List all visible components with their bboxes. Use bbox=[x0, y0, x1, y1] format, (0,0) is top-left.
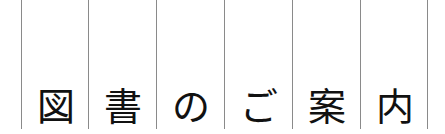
title-char: 書 bbox=[104, 88, 142, 126]
title-char-cell: 書 bbox=[89, 84, 156, 130]
title-char: 図 bbox=[37, 88, 75, 126]
title-char: の bbox=[172, 88, 210, 126]
title-char: ご bbox=[240, 88, 278, 126]
title-char-cell: 内 bbox=[361, 84, 428, 130]
title-char: 内 bbox=[376, 88, 414, 126]
title-char: 案 bbox=[308, 88, 346, 126]
title-char-cell: 図 bbox=[22, 84, 89, 130]
title-char-cell: の bbox=[157, 84, 224, 130]
title-char-cell: ご bbox=[225, 84, 292, 130]
title-char-cell: 案 bbox=[293, 84, 360, 130]
title-banner: 図 書 の ご 案 内 bbox=[0, 0, 445, 134]
